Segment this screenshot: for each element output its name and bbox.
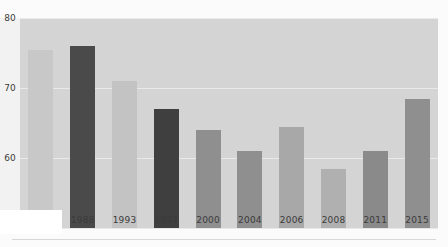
x-axis-tick-label: 1993 bbox=[113, 215, 137, 225]
bar-1988 bbox=[70, 46, 95, 228]
bar-1984 bbox=[28, 50, 53, 229]
y-axis-label-gutter bbox=[0, 18, 20, 228]
x-axis-tick-label: 1997 bbox=[154, 215, 178, 225]
y-axis-tick-label: 80 bbox=[4, 13, 16, 23]
y-axis-tick-label: 60 bbox=[4, 153, 16, 163]
x-axis-tick-label: 2011 bbox=[363, 215, 387, 225]
x-axis-tick-label: 2015 bbox=[405, 215, 429, 225]
bar-group bbox=[20, 18, 438, 228]
x-axis-tick-label: 2006 bbox=[280, 215, 304, 225]
bar-1993 bbox=[112, 81, 137, 228]
y-axis-tick-label: 70 bbox=[4, 83, 16, 93]
x-axis-tick-label: 2008 bbox=[322, 215, 346, 225]
x-axis-tick-group: 1984198819931997200020042006200820112015 bbox=[20, 212, 438, 232]
figure-corner-blank bbox=[0, 210, 62, 234]
bar-2015 bbox=[405, 99, 430, 229]
chart-figure: Percentage of Turnout 50607080 198419881… bbox=[0, 0, 448, 247]
plot-area: 50607080 bbox=[20, 18, 438, 228]
bar-1997 bbox=[154, 109, 179, 228]
figure-baseline-rule bbox=[12, 239, 436, 240]
x-axis-tick-label: 2004 bbox=[238, 215, 262, 225]
x-axis-tick-label: 2000 bbox=[196, 215, 220, 225]
x-axis-tick-label: 1988 bbox=[71, 215, 95, 225]
